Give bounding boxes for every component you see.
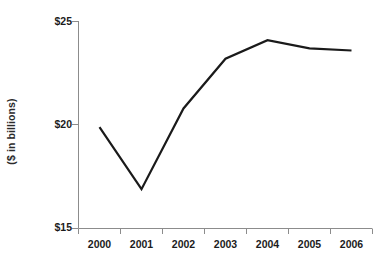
x-tick-label-2005: 2005: [298, 238, 321, 250]
x-tick-label-2004: 2004: [256, 238, 279, 250]
x-tick-label-2006: 2006: [340, 238, 363, 250]
x-axis-tick-labels: 2000 2001 2002 2003 2004 2005 2006: [0, 0, 386, 263]
x-tick-label-2003: 2003: [214, 238, 237, 250]
x-tick-label-2002: 2002: [172, 238, 195, 250]
x-tick-label-2000: 2000: [88, 238, 111, 250]
line-chart: ($ in billions) $25 $20 $15 2000 2001 20…: [0, 0, 386, 263]
x-tick-label-2001: 2001: [130, 238, 153, 250]
